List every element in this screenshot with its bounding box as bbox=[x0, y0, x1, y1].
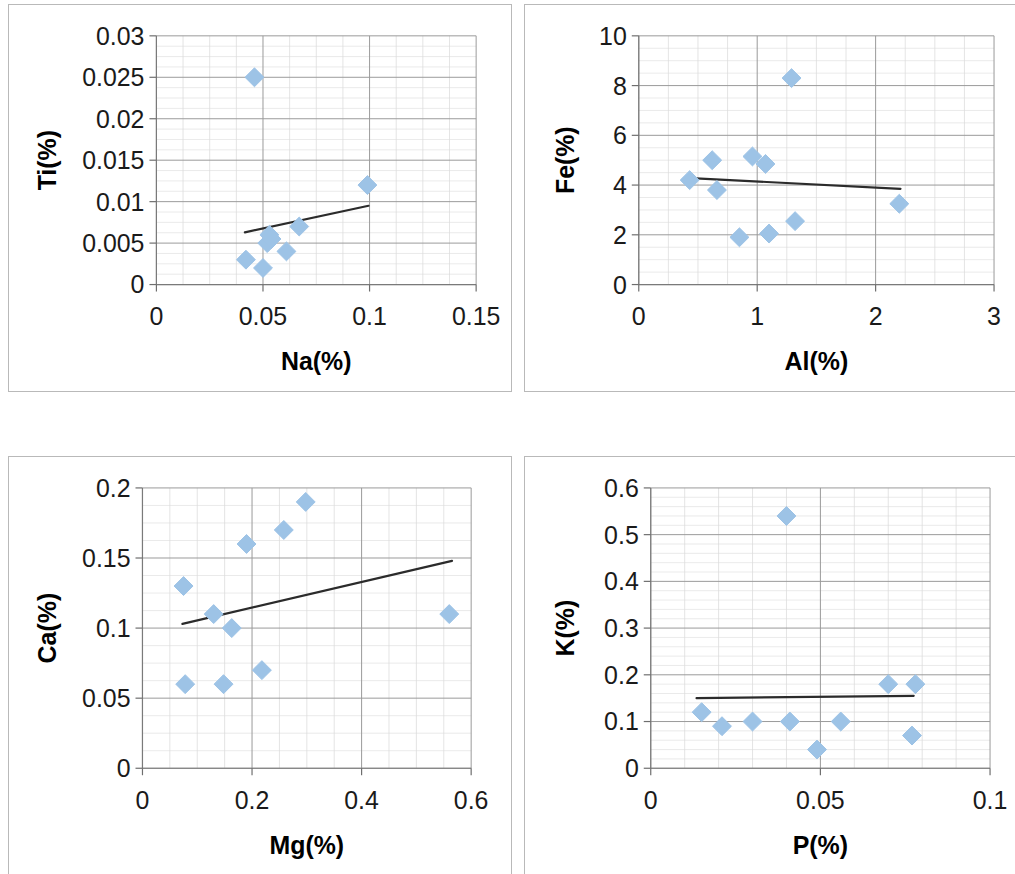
y-axis-tick-label: 6 bbox=[613, 121, 627, 149]
x-axis-tick-label: 0.05 bbox=[239, 302, 287, 330]
x-axis-tick-label: 0 bbox=[136, 786, 150, 814]
y-axis-tick-label: 0 bbox=[613, 271, 627, 299]
grid-layer bbox=[651, 488, 990, 768]
y-axis-title: Ca(%) bbox=[33, 593, 61, 664]
grid-layer bbox=[142, 488, 471, 768]
data-point-marker bbox=[780, 712, 799, 731]
data-point-marker bbox=[245, 68, 264, 87]
data-point-marker bbox=[222, 619, 241, 638]
chart-ca-vs-mg: 00.050.10.150.200.20.40.6Mg(%)Ca(%) bbox=[9, 457, 511, 874]
y-axis-tick-label: 0.01 bbox=[96, 188, 144, 216]
y-axis-tick-label: 4 bbox=[613, 171, 627, 199]
data-point-marker bbox=[808, 740, 827, 759]
panel-k-vs-p: 00.10.20.30.40.50.600.050.1P(%)K(%) bbox=[524, 456, 1015, 874]
y-axis-title: Ti(%) bbox=[33, 130, 61, 190]
data-point-marker bbox=[358, 176, 377, 195]
data-point-marker bbox=[879, 675, 898, 694]
x-axis-tick-label: 0 bbox=[149, 302, 163, 330]
x-axis-tick-label: 0.2 bbox=[235, 786, 270, 814]
x-axis-title: P(%) bbox=[793, 831, 848, 859]
y-axis-tick-label: 0.6 bbox=[604, 474, 639, 502]
chart-fe-vs-al: 02468100123Al(%)Fe(%) bbox=[525, 5, 1015, 391]
y-axis-tick-label: 0.2 bbox=[96, 474, 131, 502]
x-axis-tick-label: 0.6 bbox=[454, 786, 489, 814]
y-axis-tick-label: 0.015 bbox=[82, 146, 144, 174]
y-axis-tick-label: 0.1 bbox=[604, 708, 639, 736]
y-axis-tick-label: 0 bbox=[131, 271, 145, 299]
data-point-marker bbox=[277, 242, 296, 261]
data-point-marker bbox=[440, 605, 459, 624]
data-point-marker bbox=[703, 151, 722, 170]
data-point-marker bbox=[707, 181, 726, 200]
y-axis-tick-label: 0.4 bbox=[604, 567, 639, 595]
data-point-marker bbox=[252, 661, 271, 680]
data-point-layer bbox=[680, 69, 909, 247]
data-point-marker bbox=[237, 535, 256, 554]
data-point-marker bbox=[831, 712, 850, 731]
data-point-marker bbox=[890, 194, 909, 213]
y-axis-tick-label: 0.1 bbox=[96, 614, 131, 642]
x-axis-tick-label: 3 bbox=[987, 302, 1001, 330]
y-axis-tick-label: 0 bbox=[117, 754, 131, 782]
y-axis-tick-label: 10 bbox=[599, 22, 627, 50]
panel-ti-vs-na: 00.0050.010.0150.020.0250.0300.050.10.15… bbox=[8, 4, 512, 392]
y-axis-tick-label: 8 bbox=[613, 72, 627, 100]
data-point-marker bbox=[903, 726, 922, 745]
x-axis-tick-label: 0.1 bbox=[352, 302, 387, 330]
y-axis-tick-label: 0.05 bbox=[82, 684, 130, 712]
y-axis-title: Fe(%) bbox=[551, 126, 579, 194]
y-axis-tick-label: 0.5 bbox=[604, 521, 639, 549]
data-point-marker bbox=[174, 577, 193, 596]
grid-layer bbox=[639, 36, 994, 285]
y-axis-tick-label: 0.15 bbox=[82, 544, 130, 572]
x-axis-title: Al(%) bbox=[785, 347, 849, 375]
multi-panel-scatter-figure: 00.0050.010.0150.020.0250.0300.050.10.15… bbox=[0, 0, 1015, 874]
y-axis-tick-label: 0.025 bbox=[82, 63, 144, 91]
data-point-layer bbox=[236, 68, 376, 278]
y-axis-tick-label: 0.03 bbox=[96, 22, 144, 50]
chart-ti-vs-na: 00.0050.010.0150.020.0250.0300.050.10.15… bbox=[9, 5, 511, 391]
data-point-marker bbox=[296, 492, 315, 511]
x-axis-tick-label: 0.1 bbox=[973, 786, 1008, 814]
x-axis-tick-label: 1 bbox=[750, 302, 764, 330]
x-axis-tick-label: 0 bbox=[632, 302, 646, 330]
data-point-marker bbox=[777, 506, 796, 525]
data-point-marker bbox=[743, 712, 762, 731]
y-axis-title: K(%) bbox=[551, 600, 579, 657]
x-axis-tick-label: 0.15 bbox=[452, 302, 500, 330]
grid-layer bbox=[156, 36, 476, 285]
data-point-marker bbox=[786, 212, 805, 231]
x-axis-title: Mg(%) bbox=[269, 831, 344, 859]
x-axis-tick-label: 2 bbox=[869, 302, 883, 330]
y-axis-tick-label: 0 bbox=[625, 754, 639, 782]
data-point-marker bbox=[176, 675, 195, 694]
panel-fe-vs-al: 02468100123Al(%)Fe(%) bbox=[524, 4, 1015, 392]
data-point-marker bbox=[692, 703, 711, 722]
data-point-marker bbox=[713, 717, 732, 736]
x-axis-tick-label: 0.4 bbox=[344, 786, 379, 814]
data-point-marker bbox=[236, 250, 255, 269]
data-point-marker bbox=[274, 520, 293, 539]
trendline bbox=[697, 696, 914, 698]
data-point-marker bbox=[760, 224, 779, 243]
data-point-marker bbox=[730, 228, 749, 247]
x-axis-title: Na(%) bbox=[281, 347, 352, 375]
x-axis-tick-label: 0 bbox=[644, 786, 658, 814]
data-point-marker bbox=[680, 171, 699, 190]
data-point-marker bbox=[254, 259, 273, 278]
y-axis-tick-label: 2 bbox=[613, 221, 627, 249]
chart-k-vs-p: 00.10.20.30.40.50.600.050.1P(%)K(%) bbox=[525, 457, 1015, 874]
data-point-marker bbox=[204, 605, 223, 624]
y-axis-tick-label: 0.02 bbox=[96, 105, 144, 133]
y-axis-tick-label: 0.005 bbox=[82, 229, 144, 257]
y-axis-tick-label: 0.3 bbox=[604, 614, 639, 642]
panel-ca-vs-mg: 00.050.10.150.200.20.40.6Mg(%)Ca(%) bbox=[8, 456, 512, 874]
data-point-marker bbox=[782, 69, 801, 88]
y-axis-tick-label: 0.2 bbox=[604, 661, 639, 689]
data-point-marker bbox=[214, 675, 233, 694]
x-axis-tick-label: 0.05 bbox=[796, 786, 845, 814]
